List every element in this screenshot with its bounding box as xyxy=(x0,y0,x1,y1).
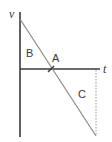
point-a-label: A xyxy=(52,52,60,64)
velocity-line xyxy=(20,19,96,136)
v-axis-label: v xyxy=(9,7,15,21)
region-c-label: C xyxy=(78,88,86,100)
region-b-label: B xyxy=(26,47,33,59)
t-axis-label: t xyxy=(103,62,107,76)
velocity-time-diagram: v t B A C xyxy=(0,0,112,142)
